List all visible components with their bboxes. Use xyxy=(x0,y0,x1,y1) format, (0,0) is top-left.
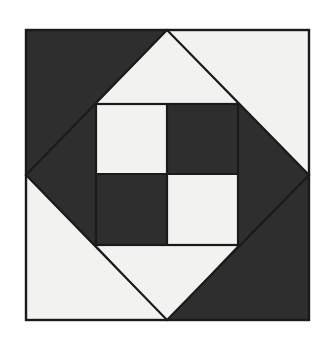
quilt-block-figure: Square-in-a-Square Quilt Block with Four… xyxy=(0,0,331,345)
four-patch-cell-top-left xyxy=(96,104,167,174)
four-patch-cell-bottom-right xyxy=(167,174,238,245)
four-patch-cell-top-right xyxy=(167,104,238,174)
quilt-block-svg: Square-in-a-Square Quilt Block with Four… xyxy=(0,0,331,345)
four-patch-cell-bottom-left xyxy=(96,174,167,245)
